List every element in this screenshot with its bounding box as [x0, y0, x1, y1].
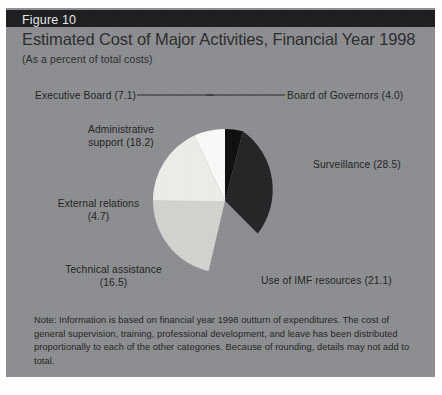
pie-label-external-relations: External relations (4.7) — [36, 198, 161, 223]
pie-label-administrative-support: Administrative support (18.2) — [61, 124, 181, 149]
pie-slices — [153, 129, 273, 271]
pie-label-use-of-imf-resources: Use of IMF resources (21.1) — [261, 275, 392, 288]
pie-chart-area: Executive Board (7.1) Administrative sup… — [6, 66, 435, 306]
pie-label-executive-board: Executive Board (7.1) — [35, 90, 136, 103]
pie-label-technical-assistance: Technical assistance (16.5) — [46, 264, 181, 289]
pie-label-surveillance: Surveillance (28.5) — [313, 159, 401, 172]
pie-label-administrative-support-line1: Administrative — [61, 124, 181, 137]
pie-label-administrative-support-line2: support (18.2) — [61, 137, 181, 150]
figure-panel: Figure 10 Estimated Cost of Major Activi… — [6, 8, 435, 377]
pie-label-technical-assistance-line1: Technical assistance — [46, 264, 181, 277]
pie-label-external-relations-line2: (4.7) — [36, 211, 161, 224]
figure-note: Note: Information is based on financial … — [34, 314, 420, 368]
figure-title: Estimated Cost of Major Activities, Fina… — [22, 30, 415, 49]
figure-screenshot: Figure 10 Estimated Cost of Major Activi… — [0, 0, 442, 395]
figure-subtitle: (As a percent of total costs) — [22, 53, 153, 65]
pie-label-external-relations-line1: External relations — [36, 198, 161, 211]
figure-number-label: Figure 10 — [22, 13, 76, 27]
figure-number-bar: Figure 10 — [6, 10, 435, 27]
pie-label-board-of-governors: Board of Governors (4.0) — [287, 90, 403, 103]
pie-label-technical-assistance-line2: (16.5) — [46, 277, 181, 290]
